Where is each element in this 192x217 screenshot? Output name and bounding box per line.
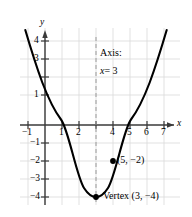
y-axis-arrow [42,30,47,38]
y-tick-label-4: 4 [34,36,39,46]
x-axis-name-label: x [177,119,181,129]
axis-of-symmetry-equation: x= 3 [100,66,118,76]
y-axis-name-label: y [40,18,44,28]
y-tick-label-neg2: −2 [30,156,40,166]
x-tick-label-1: 1 [59,128,64,138]
parabola-graph-figure: −1 1 2 4 5 6 7 4 3 1 −1 −2 −3 −4 y x Axi… [0,0,192,217]
axis-of-symmetry-title: Axis: [100,48,122,58]
y-tick-label-1: 1 [34,90,39,100]
x-tick-label-6: 6 [144,128,149,138]
y-tick-label-neg3: −3 [30,174,40,184]
x-axis-arrow [167,122,174,127]
vertex-point-marker [93,194,99,200]
x-tick-label-2: 2 [76,128,81,138]
vertex-label: Vertex (3, −4) [103,191,159,201]
y-tick-label-3: 3 [34,54,39,64]
y-tick-label-neg1: −1 [30,138,40,148]
y-tick-label-neg4: −4 [30,192,40,202]
x-axis [20,122,174,127]
sample-point-marker [110,158,116,164]
axis-equation-value: = 3 [104,65,117,76]
x-tick-label-4: 4 [110,128,115,138]
sample-point-label: (5, −2) [117,155,144,165]
graph-canvas [0,0,192,217]
x-tick-label-7: 7 [161,128,166,138]
x-tick-label-5: 5 [127,128,132,138]
